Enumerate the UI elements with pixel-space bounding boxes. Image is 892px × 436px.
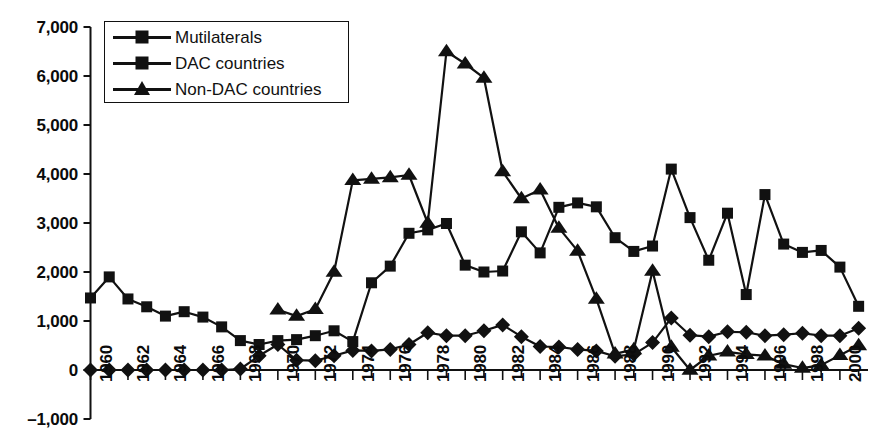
y-tick-label: 4,000 bbox=[2, 166, 78, 183]
x-tick-label: 1984 bbox=[547, 345, 564, 382]
legend-diamond-icon bbox=[111, 25, 173, 49]
series-dac-countries bbox=[85, 164, 864, 350]
x-tick-label: 1990 bbox=[660, 345, 677, 382]
y-tick-label: 7,000 bbox=[2, 19, 78, 36]
legend-item-multilaterals: Mutilaterals bbox=[105, 24, 348, 50]
legend-item-non-dac: Non-DAC countries bbox=[105, 76, 348, 102]
x-tick-label: 1980 bbox=[472, 345, 489, 382]
x-tick-label: 1976 bbox=[397, 345, 414, 382]
x-tick-label: 1988 bbox=[622, 345, 639, 382]
y-tick-label: 5,000 bbox=[2, 117, 78, 134]
legend-label-multilaterals: Mutilaterals bbox=[175, 29, 262, 46]
y-tick-label: 3,000 bbox=[2, 215, 78, 232]
x-tick-label: 1992 bbox=[697, 345, 714, 382]
x-tick-label: 1962 bbox=[135, 345, 152, 382]
y-axis-ticks bbox=[84, 27, 91, 419]
x-tick-label: 1968 bbox=[247, 345, 264, 382]
x-tick-label: 1986 bbox=[585, 345, 602, 382]
y-tick-label: 2,000 bbox=[2, 264, 78, 281]
y-tick-label: 0 bbox=[2, 362, 78, 379]
x-tick-label: 1964 bbox=[172, 345, 189, 382]
x-tick-label: 1998 bbox=[809, 345, 826, 382]
legend-item-dac: DAC countries bbox=[105, 50, 348, 76]
y-tick-label: 6,000 bbox=[2, 68, 78, 85]
legend-label-non-dac: Non-DAC countries bbox=[175, 81, 321, 98]
legend-triangle-icon bbox=[111, 77, 173, 101]
x-tick-label: 1970 bbox=[285, 345, 302, 382]
legend-label-dac: DAC countries bbox=[175, 55, 285, 72]
chart-legend: Mutilaterals DAC countries Non-DAC count… bbox=[104, 21, 349, 103]
y-tick-label: 1,000 bbox=[2, 313, 78, 330]
x-tick-label: 1978 bbox=[435, 345, 452, 382]
x-tick-label: 1974 bbox=[360, 345, 377, 382]
x-tick-label: 1960 bbox=[98, 345, 115, 382]
x-tick-label: 2000 bbox=[847, 345, 864, 382]
chart-container: 7,0006,0005,0004,0003,0002,0001,0000–1,0… bbox=[0, 0, 892, 436]
y-tick-label: –1,000 bbox=[2, 411, 78, 428]
x-tick-label: 1966 bbox=[210, 345, 227, 382]
x-tick-label: 1982 bbox=[510, 345, 527, 382]
x-tick-label: 1972 bbox=[322, 345, 339, 382]
x-tick-label: 1994 bbox=[734, 345, 751, 382]
legend-square-icon bbox=[111, 51, 173, 75]
x-tick-label: 1996 bbox=[772, 345, 789, 382]
